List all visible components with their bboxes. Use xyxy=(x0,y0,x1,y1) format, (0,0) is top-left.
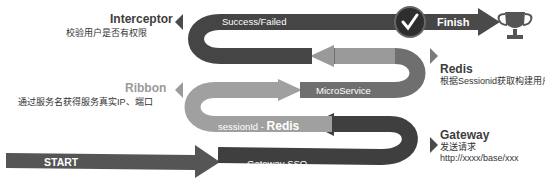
redis-title: Redis xyxy=(440,62,473,76)
pointer-ribbon xyxy=(175,82,183,98)
check-circle-icon xyxy=(395,7,425,37)
interceptor-title: Interceptor xyxy=(110,12,170,26)
gateway-sso-label: Gateway SSO xyxy=(247,158,307,169)
success-failed-label: Success/Failed xyxy=(222,16,286,27)
redis-desc: 根据Sessionid获取构建用户 xyxy=(440,76,545,87)
finish-label: Finish xyxy=(437,16,469,28)
pointer-redis xyxy=(430,48,438,64)
pointer-interceptor xyxy=(175,14,183,30)
interceptor-annotation: Interceptor xyxy=(110,12,170,26)
gateway-desc-2: http://xxxx/base/xxx xyxy=(440,153,519,164)
ribbon-desc: 通过服务名获得服务真实IP、端口 xyxy=(18,97,153,108)
gateway-desc-1: 发送请求 xyxy=(440,142,476,153)
interceptor-desc: 校验用户是否有权限 xyxy=(66,28,147,39)
gateway-title: Gateway xyxy=(440,128,489,142)
session-redis-label: sessionId - Redis xyxy=(218,119,299,133)
session-redis-strong: Redis xyxy=(267,119,300,133)
start-label: START xyxy=(44,156,78,168)
trophy-icon xyxy=(499,12,532,39)
start-arrow xyxy=(6,145,220,178)
ribbon-title: Ribbon xyxy=(125,81,166,95)
session-prefix: sessionId - xyxy=(218,121,267,132)
microservice-label: MicroService xyxy=(316,85,371,96)
pointer-gateway xyxy=(430,137,438,153)
